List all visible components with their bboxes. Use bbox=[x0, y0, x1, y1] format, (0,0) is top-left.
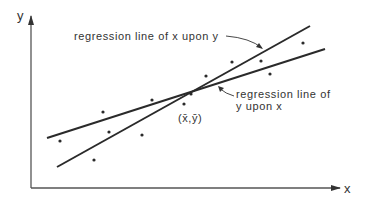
data-point bbox=[189, 92, 192, 95]
label-y-upon-x-line1: regression line of bbox=[236, 88, 331, 100]
mean-point-label: (x̄,ȳ) bbox=[178, 112, 202, 124]
y-axis-label: y bbox=[17, 8, 24, 23]
data-point bbox=[140, 133, 143, 136]
data-point bbox=[259, 59, 262, 62]
data-point bbox=[101, 110, 104, 113]
data-point bbox=[301, 41, 304, 44]
data-point bbox=[107, 130, 110, 133]
label-y-upon-x-line2: y upon x bbox=[236, 100, 282, 112]
leader-arrowhead-x-upon-y bbox=[256, 43, 263, 49]
data-point bbox=[58, 139, 61, 142]
regression-diagram: y x regression line of x upon y regressi… bbox=[0, 0, 365, 207]
data-point bbox=[204, 74, 207, 77]
label-x-upon-y: regression line of x upon y bbox=[74, 30, 219, 42]
data-point bbox=[182, 102, 185, 105]
data-point bbox=[268, 72, 271, 75]
data-point bbox=[92, 158, 95, 161]
data-point bbox=[150, 98, 153, 101]
data-point bbox=[230, 60, 233, 63]
x-axis-label: x bbox=[344, 181, 351, 196]
